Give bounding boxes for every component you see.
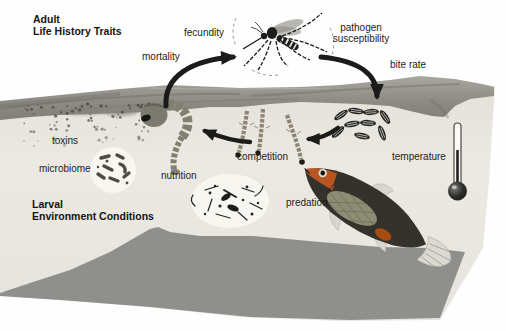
- microbiome-bacteria: [90, 147, 136, 193]
- larval-title: Larval Environment Conditions: [32, 198, 154, 222]
- label-mortality: mortality: [142, 51, 180, 62]
- label-fecundity: fecundity: [184, 27, 224, 38]
- nutrition-detritus: [191, 174, 269, 228]
- larval-title-line2: Environment Conditions: [32, 210, 154, 222]
- adult-title-line2: Life History Traits: [33, 25, 122, 37]
- label-competition: competition: [237, 151, 288, 162]
- adult-mosquito: [233, 13, 334, 75]
- label-pathogen-susceptibility: pathogen susceptibility: [324, 22, 398, 44]
- adult-title: Adult Life History Traits: [33, 13, 122, 37]
- label-nutrition: nutrition: [161, 170, 197, 181]
- label-temperature: temperature: [392, 151, 446, 162]
- adult-title-line1: Adult: [33, 13, 122, 25]
- label-bite-rate: bite rate: [390, 59, 426, 70]
- diagram-canvas: Adult Life History Traits fecundity mort…: [0, 0, 506, 331]
- label-microbiome: microbiome: [39, 163, 91, 174]
- label-toxins: toxins: [52, 135, 78, 146]
- label-predation: predation: [286, 197, 328, 208]
- larval-title-line1: Larval: [32, 198, 154, 210]
